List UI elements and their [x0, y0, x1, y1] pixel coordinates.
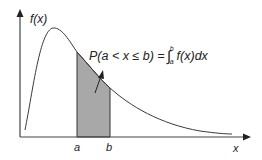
probability-formula: P(a < x ≤ b) = ∫ b a f(x)dx — [89, 47, 208, 64]
integral-upper-limit: b — [170, 45, 174, 52]
shaded-probability-area — [77, 52, 110, 137]
integral-lower-limit: a — [170, 58, 174, 65]
formula-lhs: P(a < x ≤ b) = — [89, 49, 165, 63]
x-axis-arrowhead-icon — [243, 134, 251, 141]
formula-integrand: f(x)dx — [177, 49, 208, 63]
density-curve — [25, 28, 232, 134]
y-axis-label: f(x) — [30, 12, 47, 26]
y-axis-arrowhead-icon — [17, 9, 24, 17]
upper-bound-label: b — [106, 141, 112, 153]
lower-bound-label: a — [74, 141, 80, 153]
x-axis-label: x — [233, 142, 239, 154]
pointer-arrowhead-icon — [98, 70, 104, 79]
